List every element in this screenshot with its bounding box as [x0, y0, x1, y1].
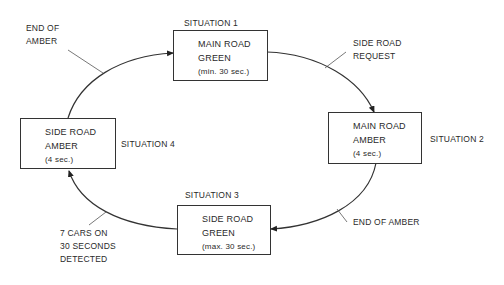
state-duration: (4 sec.) — [45, 153, 115, 167]
state-line-2: GREEN — [202, 226, 270, 240]
transition-text-line-1: SIDE ROAD — [353, 37, 402, 50]
transition-text-line-1: END OF — [26, 22, 59, 35]
state-line-1: SIDE ROAD — [202, 212, 270, 226]
tick-7-cars — [89, 212, 106, 225]
state-line-2: GREEN — [198, 51, 267, 65]
situation-2-label: SITUATION 2 — [430, 133, 484, 146]
transition-text-line-2: AMBER — [26, 35, 59, 48]
state-box-side-road-amber: SIDE ROAD AMBER (4 sec.) — [20, 118, 116, 169]
state-line-1: MAIN ROAD — [353, 119, 421, 133]
transition-text-line-1: 7 CARS ON — [60, 227, 116, 240]
situation-4-label: SITUATION 4 — [121, 138, 175, 151]
arc-s4-to-s1 — [68, 53, 173, 118]
state-line-1: SIDE ROAD — [45, 125, 115, 139]
state-duration: (4 sec.) — [353, 147, 421, 161]
tick-side-road-request — [325, 52, 346, 68]
tick-end-of-amber-2 — [337, 209, 347, 222]
transition-label-end-of-amber-main: END OF AMBER — [353, 216, 420, 229]
state-duration: (min. 30 sec.) — [198, 65, 267, 79]
state-box-main-road-amber: MAIN ROAD AMBER (4 sec.) — [328, 112, 422, 164]
state-line-2: AMBER — [45, 139, 115, 153]
transition-text-line-3: DETECTED — [60, 253, 116, 266]
state-line-1: MAIN ROAD — [198, 37, 267, 51]
transition-label-end-of-amber-side: END OF AMBER — [26, 22, 59, 48]
state-line-2: AMBER — [353, 133, 421, 147]
state-box-main-road-green: MAIN ROAD GREEN (min. 30 sec.) — [173, 30, 268, 81]
transition-text-line-1: END OF AMBER — [353, 216, 420, 229]
tick-end-of-amber-4 — [68, 50, 103, 73]
situation-3-label: SITUATION 3 — [185, 189, 239, 202]
arc-s3-to-s4 — [69, 171, 177, 229]
state-duration: (max. 30 sec.) — [202, 240, 270, 254]
situation-1-label: SITUATION 1 — [184, 17, 238, 30]
state-box-side-road-green: SIDE ROAD GREEN (max. 30 sec.) — [177, 205, 271, 255]
transition-label-side-road-request: SIDE ROAD REQUEST — [353, 37, 402, 63]
transition-text-line-2: REQUEST — [353, 50, 402, 63]
transition-label-7-cars-detected: 7 CARS ON 30 SECONDS DETECTED — [60, 227, 116, 266]
transition-text-line-2: 30 SECONDS — [60, 240, 116, 253]
